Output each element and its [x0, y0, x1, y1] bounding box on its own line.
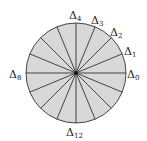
label-delta-1: Δ1: [124, 45, 136, 59]
label-delta-8: Δ8: [9, 68, 21, 82]
label-delta-0: Δ0: [127, 68, 139, 82]
sector-diagram: Δ0 Δ1 Δ2 Δ3 Δ4 Δ8 Δ12: [0, 0, 147, 141]
label-delta-2: Δ2: [110, 26, 122, 40]
label-delta-12: Δ12: [66, 126, 83, 140]
center-point: [74, 71, 78, 75]
label-delta-3: Δ3: [91, 14, 103, 28]
label-delta-4: Δ4: [69, 9, 82, 23]
